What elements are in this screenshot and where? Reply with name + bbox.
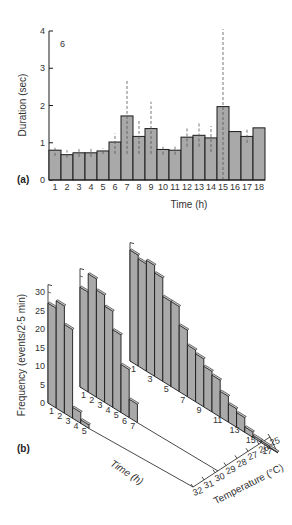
time-tick-label: 4 — [74, 421, 79, 431]
y-tick-label: 0 — [40, 398, 45, 408]
figure: 012341234567891011121314151617186Duratio… — [0, 0, 292, 525]
y-tick-label: 15 — [35, 343, 45, 353]
y-tick-label: 30 — [35, 287, 45, 297]
time-tick-label: 3 — [147, 374, 152, 384]
x-tick-label: 11 — [170, 182, 179, 192]
bar — [97, 151, 109, 180]
x-tick-label: 17 — [242, 182, 252, 192]
x-tick-label: 18 — [254, 182, 264, 192]
y-tick-label: 2 — [40, 101, 45, 111]
time-tick-label: 1 — [81, 390, 86, 400]
time-tick-label: 7 — [180, 395, 185, 405]
x-tick-label: 4 — [88, 182, 93, 192]
time-tick-label: 17 — [262, 446, 272, 456]
x-tick-label: 14 — [206, 182, 216, 192]
time-tick-label: 9 — [197, 405, 202, 415]
time-tick-label: 2 — [89, 395, 94, 405]
bar — [130, 250, 138, 366]
time-tick-label: 3 — [65, 416, 70, 426]
x-axis-label: Time (h) — [171, 199, 208, 210]
chart-a-duration: 012341234567891011121314151617186Duratio… — [17, 26, 265, 210]
time-axis-line — [137, 423, 218, 471]
bar — [193, 135, 205, 180]
annotation: 6 — [60, 39, 65, 49]
y-tick-label: 1 — [40, 138, 45, 148]
temperature-tick-label: 31 — [202, 478, 215, 491]
x-tick-label: 5 — [100, 182, 105, 192]
temperature-tick-label: 30 — [213, 471, 226, 484]
x-tick-label: 12 — [182, 182, 192, 192]
bar — [155, 273, 163, 382]
time-tick-label: 11 — [213, 415, 222, 425]
bar — [61, 155, 73, 180]
temperature-tick-label: 27 — [246, 449, 259, 462]
x-tick-label: 13 — [194, 182, 204, 192]
bar — [88, 274, 96, 398]
y-tick-label: 0 — [40, 175, 45, 185]
bar-block-block-back: 1357911131517 — [130, 243, 279, 456]
y-tick-label: 3 — [40, 63, 45, 73]
y-tick-label: 4 — [40, 26, 45, 36]
bar — [229, 132, 241, 180]
bar — [146, 260, 154, 376]
time-tick-label: 15 — [246, 435, 256, 445]
y-tick-label: 20 — [35, 324, 45, 334]
y-tick-label: 5 — [40, 380, 45, 390]
y-tick-label: 25 — [35, 306, 45, 316]
bar — [196, 354, 204, 407]
time-tick-label: 4 — [106, 405, 111, 415]
time-tick-label: 3 — [97, 400, 102, 410]
y-axis-label: Frequency (events/2·5 min) — [16, 294, 27, 416]
x-tick-label: 9 — [148, 182, 153, 192]
bar — [56, 301, 64, 413]
x-tick-label: 2 — [64, 182, 69, 192]
temperature-tick-label: 32 — [191, 485, 204, 498]
bar — [241, 136, 253, 180]
x-axis-label: Time (h) — [108, 457, 145, 486]
bar — [80, 287, 88, 392]
bar — [187, 345, 195, 402]
x-tick-label: 7 — [124, 182, 129, 192]
time-tick-label: 5 — [164, 384, 169, 394]
bar — [179, 325, 187, 397]
bar — [204, 366, 212, 412]
y-tick-label: 10 — [35, 361, 45, 371]
x-tick-label: 3 — [76, 182, 81, 192]
panel-label-b: (b) — [17, 443, 30, 454]
bar — [212, 375, 220, 417]
bar — [171, 301, 179, 391]
bar — [121, 364, 129, 417]
time-tick-label: 6 — [122, 416, 127, 426]
time-tick-label: 5 — [82, 426, 87, 436]
bar — [253, 128, 265, 180]
temperature-tick-label: 29 — [224, 464, 237, 477]
panel-label-a: (a) — [17, 174, 29, 185]
x-tick-label: 8 — [136, 182, 141, 192]
bar — [138, 259, 146, 371]
bar — [105, 306, 113, 407]
y-axis-label: Duration (sec) — [17, 74, 28, 137]
bar — [113, 330, 121, 413]
x-tick-label: 10 — [158, 182, 168, 192]
chart-b-frequency-3d: 3231302928272625135791113151712345670510… — [16, 243, 285, 507]
bar — [48, 303, 56, 408]
x-tick-label: 16 — [230, 182, 240, 192]
bar — [163, 296, 171, 386]
z-axis-label: Temperature (°C) — [212, 462, 285, 507]
time-tick-label: 13 — [229, 425, 239, 435]
time-tick-label: 2 — [57, 411, 62, 421]
time-tick-label: 1 — [131, 364, 136, 374]
bar — [96, 290, 104, 402]
time-tick-label: 7 — [130, 421, 135, 431]
time-tick-label: 5 — [114, 410, 119, 420]
temperature-tick-label: 28 — [235, 456, 248, 469]
time-tick-label: 1 — [49, 406, 54, 416]
x-tick-label: 15 — [218, 182, 228, 192]
x-tick-label: 1 — [52, 182, 57, 192]
bar — [64, 324, 72, 418]
x-tick-label: 6 — [112, 182, 117, 192]
